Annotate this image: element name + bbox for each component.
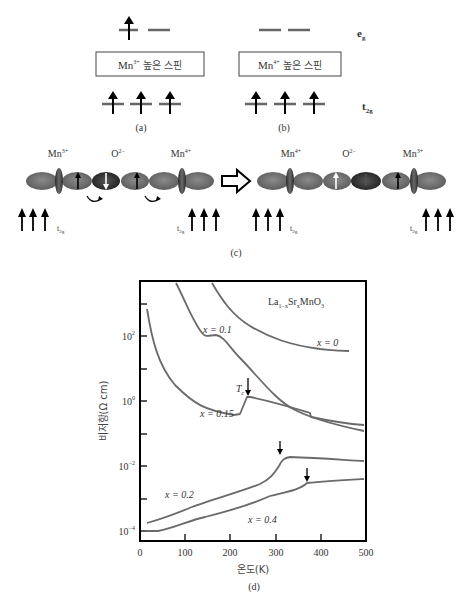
spin-up-arrow-icon [108, 91, 175, 114]
t2g-level-b [245, 91, 325, 114]
panel-a: Mn3+높은 스핀 (a) [96, 16, 204, 134]
mn4-high-spin-label: Mn4+높은 스핀 [258, 59, 322, 71]
label-x-0.4: x = 0.4 [247, 514, 277, 525]
y-axis-title: 비저항(Ω cm) [98, 380, 109, 441]
y-axis-tick-labels: 102 100 10−2 10−4 [119, 330, 135, 537]
panel-c: Mn3+ O2− Mn4+ [18, 148, 454, 259]
svg-text:t2g: t2g [57, 224, 65, 234]
svg-text:100: 100 [178, 547, 193, 558]
mn4-label-left: Mn4+ [171, 148, 192, 159]
x-axis-title: 온도(K) [237, 564, 269, 575]
legend-title: La1−xSrxMnO3 [268, 296, 324, 309]
curve-x-0.15 [147, 309, 364, 425]
svg-text:300: 300 [269, 547, 284, 558]
mn3-label-right: Mn3+ [403, 148, 424, 159]
label-x-0: x = 0 [316, 337, 338, 348]
label-x-0.15: x = 0.15 [199, 408, 234, 419]
label-x-0.1: x = 0.1 [202, 324, 232, 335]
spin-up-arrow-icon [251, 91, 319, 114]
svg-text:500: 500 [359, 547, 374, 558]
svg-text:0: 0 [138, 547, 143, 558]
svg-text:100: 100 [122, 395, 135, 407]
hop-arrow-icon [87, 196, 161, 201]
caption-d: (d) [248, 581, 260, 593]
orbital-chain-left [26, 168, 214, 194]
mn3-high-spin-label: Mn3+높은 스핀 [118, 59, 182, 71]
svg-text:10−2: 10−2 [119, 460, 135, 472]
caption-a: (a) [135, 122, 146, 134]
svg-text:t2g: t2g [410, 224, 418, 234]
panel-b: Mn4+높은 스핀 (b) [239, 30, 341, 134]
label-x-0.2: x = 0.2 [164, 489, 194, 500]
transition-arrow-icon [222, 170, 250, 192]
mn3-label-left: Mn3+ [48, 148, 69, 159]
eg-label: eg [357, 27, 366, 42]
mn4-label-right: Mn4+ [281, 148, 302, 159]
o2-label-left: O2− [111, 148, 125, 159]
tc-arrow-icon [245, 378, 310, 482]
x-axis-ticks [185, 534, 321, 541]
o2-label-right: O2− [342, 148, 356, 159]
t2g-label: t2g [362, 100, 373, 115]
t2g-level-a [102, 91, 181, 114]
figure-canvas: Mn3+높은 스핀 (a) Mn4+높은 스핀 [0, 0, 471, 608]
t2g-spins-left-1: t2g [18, 208, 65, 234]
tc-label: Tc [236, 383, 245, 396]
eg-level-a [119, 16, 170, 40]
t2g-spins-right-1: t2g [252, 208, 298, 234]
caption-c: (c) [230, 247, 241, 259]
caption-b: (b) [278, 122, 290, 134]
orbital-chain-right [257, 168, 446, 194]
svg-text:200: 200 [223, 547, 238, 558]
svg-text:t2g: t2g [290, 224, 298, 234]
svg-text:t2g: t2g [177, 224, 185, 234]
t2g-spins-left-2: t2g [177, 208, 220, 234]
t2g-spins-right-2: t2g [410, 208, 454, 234]
svg-text:400: 400 [314, 547, 329, 558]
svg-text:102: 102 [122, 330, 135, 342]
spin-up-arrow-icon [124, 16, 134, 40]
svg-text:10−4: 10−4 [119, 525, 135, 537]
y-axis-ticks [140, 304, 147, 531]
resistivity-chart: 102 100 10−2 10−4 0 100 200 300 400 500 … [98, 281, 374, 593]
x-axis-tick-labels: 0 100 200 300 400 500 [138, 547, 374, 558]
